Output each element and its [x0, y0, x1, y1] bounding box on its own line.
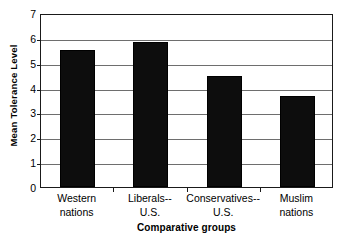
x-axis-category-label-line: Muslim [279, 192, 313, 206]
y-axis-title-text: Mean Tolerance Level [8, 44, 19, 146]
y-axis-tick-label: 5 [30, 58, 36, 69]
x-axis-title: Comparative groups [40, 222, 333, 233]
x-axis-category-labels: WesternnationsLiberals--U.S.Conservative… [40, 192, 333, 224]
y-axis-tick-label: 6 [30, 34, 36, 45]
x-axis-category-label-line: Liberals-- [128, 192, 172, 206]
y-axis-tick-labels: 01234567 [22, 14, 36, 188]
x-axis-category-label-line: Conservatives-- [186, 192, 260, 206]
x-axis-category-label: Conservatives--U.S. [186, 192, 260, 219]
x-axis-category-label: Muslimnations [279, 192, 313, 219]
bar-chart: Mean Tolerance Level 01234567 Westernnat… [0, 0, 350, 245]
x-axis-category-label-line: nations [57, 206, 96, 220]
bar [133, 42, 168, 187]
plot-area [40, 14, 333, 188]
x-axis-category-label-line: U.S. [128, 206, 172, 220]
x-axis-category-label-line: nations [279, 206, 313, 220]
y-axis-tick-label: 1 [30, 158, 36, 169]
y-axis-title: Mean Tolerance Level [4, 0, 22, 190]
y-axis-tick-label: 3 [30, 108, 36, 119]
y-axis-tick-label: 0 [30, 183, 36, 194]
x-axis-category-label-line: Western [57, 192, 96, 206]
bar [207, 76, 242, 187]
y-axis-tick-label: 2 [30, 133, 36, 144]
y-axis-tick-label: 4 [30, 83, 36, 94]
x-axis-category-label-line: U.S. [186, 206, 260, 220]
bars-group [41, 15, 332, 187]
x-axis-category-label: Liberals--U.S. [128, 192, 172, 219]
y-axis-tick-label: 7 [30, 9, 36, 20]
x-axis-category-label: Westernnations [57, 192, 96, 219]
bar [280, 96, 315, 187]
bar [60, 50, 95, 187]
